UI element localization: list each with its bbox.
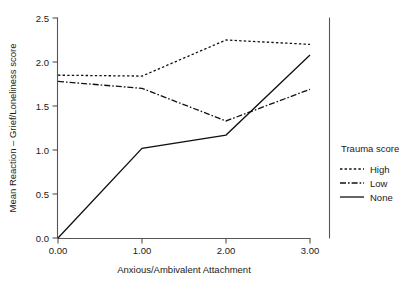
- legend-item-low[interactable]: Low: [340, 178, 388, 189]
- y-axis-title: Mean Reaction – Grief/Loneliness score: [7, 44, 18, 213]
- x-tick-label: 0.00: [49, 245, 68, 256]
- series-line-none: [58, 55, 310, 238]
- series-line-high: [58, 40, 310, 76]
- x-tick-labels: 0.00 1.00 2.00 3.00: [49, 245, 320, 256]
- y-tick-label: 1.5: [36, 101, 49, 112]
- legend-label-none: None: [370, 192, 393, 203]
- legend-label-high: High: [370, 164, 390, 175]
- y-tick-label: 1.0: [36, 145, 49, 156]
- legend-title: Trauma score: [341, 143, 399, 154]
- chart-canvas: 2.5 2.0 1.5 1.0 0.5 0.0 0.00 1.00 2.00 3…: [0, 0, 417, 289]
- y-tick-labels: 2.5 2.0 1.5 1.0 0.5 0.0: [36, 13, 49, 244]
- legend-item-high[interactable]: High: [340, 164, 390, 175]
- x-axis-title: Anxious/Ambivalent Attachment: [117, 264, 251, 275]
- series-group: [58, 40, 310, 238]
- legend-item-none[interactable]: None: [340, 192, 393, 203]
- x-tick-label: 2.00: [217, 245, 236, 256]
- y-tick-label: 0.0: [36, 233, 49, 244]
- y-tick-label: 2.0: [36, 57, 49, 68]
- legend: Trauma score High Low None: [330, 18, 400, 239]
- x-tick-marks: [58, 239, 310, 244]
- chart-figure: 2.5 2.0 1.5 1.0 0.5 0.0 0.00 1.00 2.00 3…: [0, 0, 417, 289]
- y-tick-marks: [53, 18, 58, 238]
- y-tick-label: 2.5: [36, 13, 49, 24]
- series-line-low: [58, 81, 310, 121]
- legend-label-low: Low: [370, 178, 388, 189]
- x-tick-label: 1.00: [133, 245, 152, 256]
- y-tick-label: 0.5: [36, 189, 49, 200]
- x-tick-label: 3.00: [301, 245, 320, 256]
- axes-group: [58, 18, 311, 239]
